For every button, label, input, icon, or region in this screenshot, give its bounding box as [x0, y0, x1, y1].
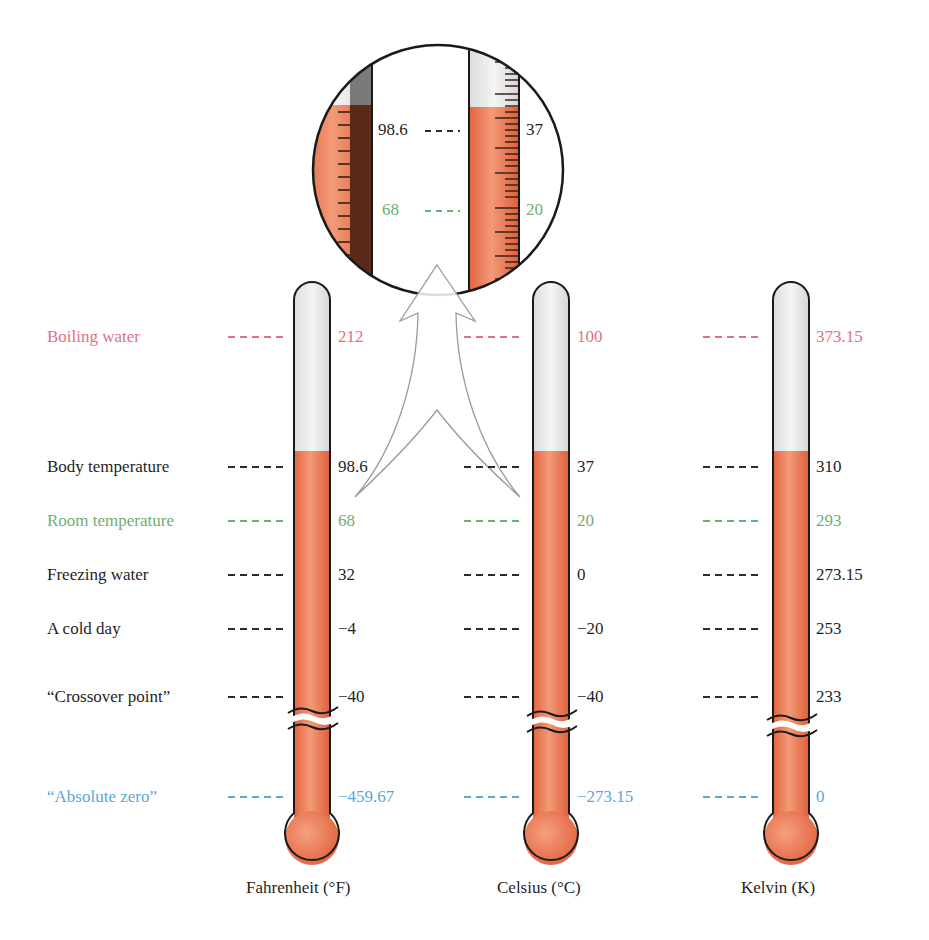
scale-name-fahrenheit: Fahrenheit (°F)	[246, 878, 351, 898]
label-boiling-water: Boiling water	[47, 327, 140, 347]
celsius-freezing: 0	[577, 565, 586, 585]
thermometer-fahrenheit	[285, 282, 339, 865]
kelvin-body: 310	[816, 457, 842, 477]
celsius-boiling: 100	[577, 327, 603, 347]
fahrenheit-crossover: −40	[338, 687, 365, 707]
magnifier-room-celsius: 20	[526, 200, 543, 220]
celsius-cold-day: −20	[577, 619, 604, 639]
label-room-temperature: Room temperature	[47, 511, 174, 531]
scale-name-kelvin: Kelvin (K)	[741, 878, 815, 898]
kelvin-cold-day: 253	[816, 619, 842, 639]
fahrenheit-body: 98.6	[338, 457, 368, 477]
fahrenheit-cold-day: −4	[338, 619, 356, 639]
magnify-arrow-icon	[355, 265, 520, 497]
label-body-temperature: Body temperature	[47, 457, 169, 477]
scale-name-celsius: Celsius (°C)	[497, 878, 581, 898]
label-freezing-water: Freezing water	[47, 565, 148, 585]
fahrenheit-room: 68	[338, 511, 355, 531]
celsius-room: 20	[577, 511, 594, 531]
kelvin-crossover: 233	[816, 687, 842, 707]
kelvin-room: 293	[816, 511, 842, 531]
fahrenheit-absolute-zero: −459.67	[338, 787, 394, 807]
fahrenheit-freezing: 32	[338, 565, 355, 585]
label-crossover-point: “Crossover point”	[47, 687, 170, 707]
thermometer-kelvin	[764, 282, 818, 865]
celsius-absolute-zero: −273.15	[577, 787, 633, 807]
celsius-crossover: −40	[577, 687, 604, 707]
kelvin-boiling: 373.15	[816, 327, 863, 347]
label-absolute-zero: “Absolute zero”	[47, 787, 157, 807]
kelvin-freezing: 273.15	[816, 565, 863, 585]
kelvin-absolute-zero: 0	[816, 787, 825, 807]
celsius-body: 37	[577, 457, 594, 477]
thermometer-celsius	[524, 282, 578, 865]
magnifier-room-fahrenheit: 68	[382, 200, 399, 220]
magnifier-body-celsius: 37	[526, 120, 543, 140]
magnifier-body-fahrenheit: 98.6	[378, 120, 408, 140]
label-cold-day: A cold day	[47, 619, 121, 639]
fahrenheit-boiling: 212	[338, 327, 364, 347]
